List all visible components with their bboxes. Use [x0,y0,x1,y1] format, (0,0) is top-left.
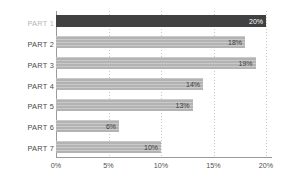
plot-area: 20%18%19%14%13%6%10% [56,11,266,157]
x-tick-label-15pct: 15% [206,162,220,169]
gridline-20pct [266,11,267,157]
bar-1[interactable]: 20% [56,15,266,27]
x-tick-label-20pct: 20% [259,162,273,169]
bar-4[interactable]: 14% [56,78,203,90]
bar-value-label: 13% [175,101,189,108]
category-label-6: PART 6 [4,124,54,131]
bar-row: 6% [56,120,266,132]
x-tick-label-10pct: 10% [154,162,168,169]
bar-row: 18% [56,36,266,48]
bar-6[interactable]: 6% [56,120,119,132]
bar-value-label: 10% [144,143,158,150]
bar-row: 14% [56,78,266,90]
bar-value-label: 6% [106,122,116,129]
bar-value-label: 18% [228,39,242,46]
bar-value-label: 20% [249,18,263,25]
bar-5[interactable]: 13% [56,99,193,111]
x-axis-tick-labels: 0%5%10%15%20% [0,162,294,176]
category-label-5: PART 5 [4,103,54,110]
bar-value-label: 14% [186,81,200,88]
category-label-1: PART 1 [4,20,54,27]
category-label-2: PART 2 [4,41,54,48]
bar-2[interactable]: 18% [56,36,245,48]
bar-row: 10% [56,141,266,153]
bar-series: 20%18%19%14%13%6%10% [56,11,266,157]
category-label-4: PART 4 [4,83,54,90]
bar-chart: PART 1PART 2PART 3PART 4PART 5PART 6PART… [0,0,294,183]
bar-row: 20% [56,15,266,27]
bar-7[interactable]: 10% [56,141,161,153]
x-tick-label-0pct: 0% [51,162,61,169]
category-axis: PART 1PART 2PART 3PART 4PART 5PART 6PART… [4,13,54,156]
bar-row: 13% [56,99,266,111]
x-tick-label-5pct: 5% [103,162,113,169]
bar-row: 19% [56,57,266,69]
x-axis-line [56,157,272,158]
category-label-3: PART 3 [4,62,54,69]
bar-value-label: 19% [238,60,252,67]
bar-3[interactable]: 19% [56,57,256,69]
category-label-7: PART 7 [4,145,54,152]
